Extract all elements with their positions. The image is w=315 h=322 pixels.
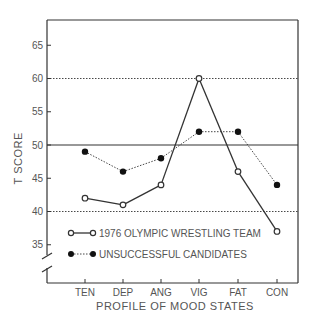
axis-break-icon [42,253,52,272]
series-unsuccessful-candidates [82,129,280,189]
data-point-open-circle-icon [274,229,280,235]
legend-filled-circle-icon [90,251,96,257]
y-tick-label: 60 [32,73,44,84]
x-tick-label-con: CON [266,287,288,298]
data-point-filled-circle-icon [274,182,280,188]
y-tick-label: 45 [32,173,44,184]
data-point-open-circle-icon [235,169,241,175]
legend-open-circle-icon [68,230,73,235]
x-axis-title: PROFILE OF MOOD STATES [96,300,254,312]
data-point-open-circle-icon [82,195,88,201]
x-tick-label-dep: DEP [113,287,134,298]
legend-filled-circle-icon [68,251,74,257]
y-tick-label: 35 [32,239,44,250]
y-tick-label: 40 [32,206,44,217]
y-tick-label: 65 [32,40,44,51]
data-point-filled-circle-icon [235,129,241,135]
x-tick-label-ten: TEN [75,287,95,298]
legend-label: 1976 OLYMPIC WRESTLING TEAM [99,228,261,239]
data-point-filled-circle-icon [120,168,126,174]
data-point-filled-circle-icon [158,155,164,161]
legend-label: UNSUCCESSFUL CANDIDATES [99,249,247,260]
legend-open-circle-icon [90,230,95,235]
y-tick-label: 55 [32,106,44,117]
series-olympic-team [82,76,280,235]
data-point-filled-circle-icon [82,148,88,154]
data-point-open-circle-icon [120,202,126,208]
data-point-filled-circle-icon [196,129,202,135]
x-tick-label-fat: FAT [229,287,247,298]
y-tick-label: 50 [32,140,44,151]
y-axis-title: T SCORE [12,132,24,184]
x-tick-label-vig: VIG [190,287,207,298]
chart: 35404550556065TENDEPANGVIGFATCONPROFILE … [0,0,315,322]
x-tick-label-ang: ANG [150,287,172,298]
data-point-open-circle-icon [158,182,164,188]
data-point-open-circle-icon [196,76,202,82]
legend: 1976 OLYMPIC WRESTLING TEAMUNSUCCESSFUL … [68,228,261,260]
